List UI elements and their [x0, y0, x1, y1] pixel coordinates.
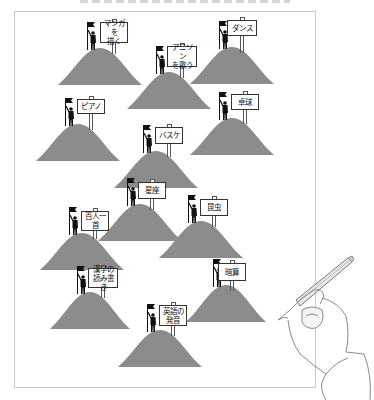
sign-post — [93, 231, 97, 239]
flag-bearer-icon — [187, 195, 201, 225]
sign-post — [171, 326, 175, 336]
hill — [50, 292, 130, 329]
hobby-sign: 百人一首 — [81, 211, 109, 231]
hobby-sign: 英語の 発音 — [159, 305, 187, 326]
hobby-sign: ピアノ — [77, 99, 105, 114]
flag-bearer-icon — [86, 22, 100, 52]
hill — [190, 47, 274, 84]
hand-with-pencil-icon — [266, 250, 374, 400]
sign-post — [89, 114, 93, 130]
sign-post — [230, 281, 234, 291]
sign-post — [150, 199, 154, 210]
hill — [190, 118, 274, 155]
hill — [118, 330, 202, 367]
flag-bearer-icon — [218, 92, 232, 122]
sign-post — [240, 36, 244, 53]
hobby-sign: 昆虫 — [200, 199, 228, 216]
hill — [36, 124, 120, 161]
hobby-sign: マンガを 描く — [100, 22, 128, 43]
hobby-sign: バスケ — [155, 127, 183, 144]
hobby-sign: 星座 — [138, 182, 166, 199]
hobby-sign: ダンス — [227, 20, 257, 36]
sign-post — [243, 110, 247, 124]
sign-post — [212, 216, 216, 227]
sign-post — [167, 144, 171, 157]
hobby-sign: 卓球 — [231, 94, 259, 110]
hobby-sign: 暗算 — [218, 263, 246, 281]
hobby-sign: 漢字の 読み書き — [88, 268, 118, 288]
flag-bearer-icon — [146, 304, 160, 334]
flag-bearer-icon — [142, 125, 156, 155]
hill — [186, 285, 266, 322]
flag-bearer-icon — [68, 207, 82, 237]
flag-bearer-icon — [64, 98, 78, 128]
hill — [159, 221, 243, 258]
